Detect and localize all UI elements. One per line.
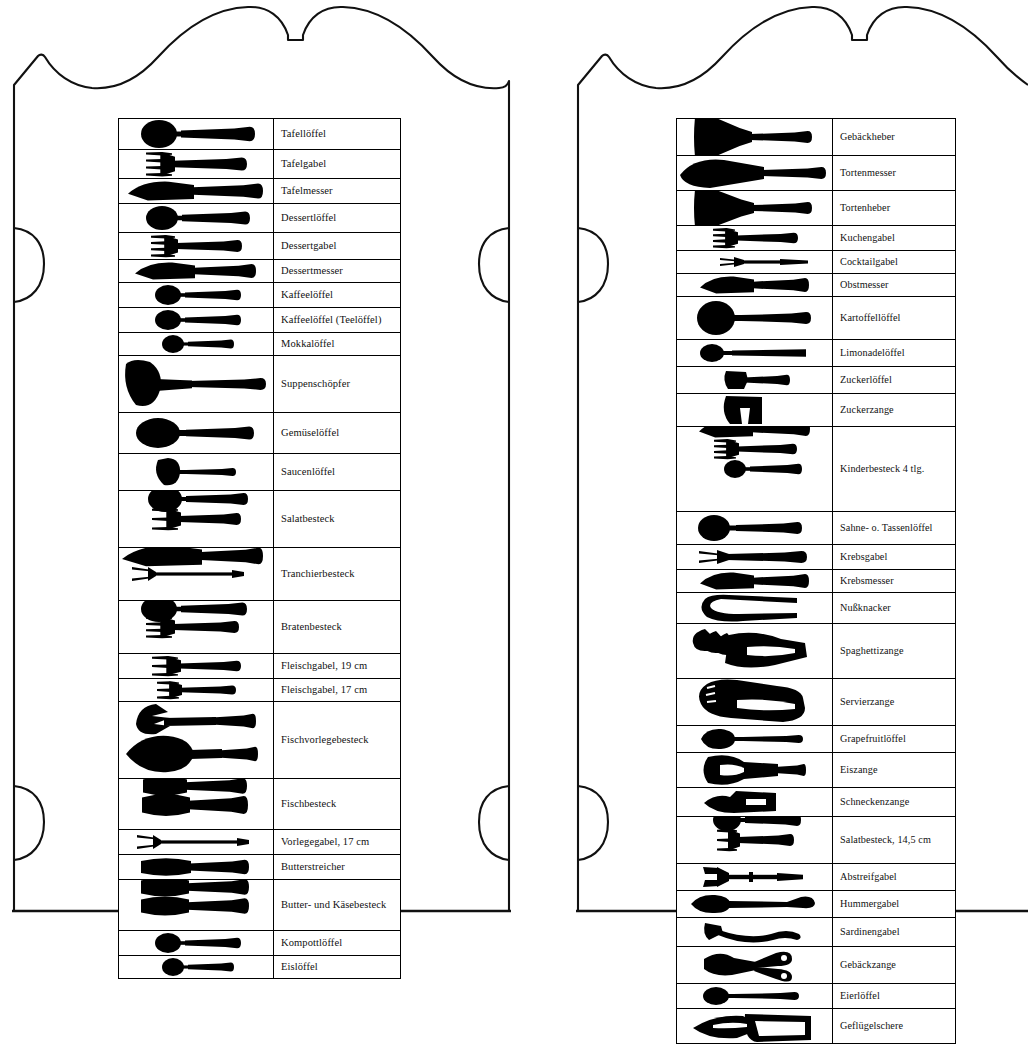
cocktail-fork-icon	[677, 251, 833, 274]
cutlery-silhouette	[677, 251, 832, 273]
table-row: Eiszange	[677, 753, 956, 788]
cutlery-label: Limonadelöffel	[833, 340, 956, 367]
table-row: Obstmesser	[677, 274, 956, 297]
spoon-tiny-icon	[119, 956, 274, 979]
cutlery-label: Grapefruitlöffel	[833, 726, 956, 753]
cutlery-label: Tafelgabel	[274, 150, 401, 179]
sugar-tongs-icon	[677, 394, 833, 427]
table-row: Geflügelschere	[677, 1009, 956, 1044]
table-row: Vorlegegabel, 17 cm	[119, 830, 401, 855]
cutlery-label: Tafelmesser	[274, 179, 401, 204]
table-row: Tafellöffel	[119, 119, 401, 150]
table-row: Abstreifgabel	[677, 864, 956, 891]
cutlery-silhouette	[119, 931, 273, 955]
table-row: Dessertmesser	[119, 260, 401, 283]
nutcracker-icon	[677, 593, 833, 624]
cutlery-label: Kaffeelöffel	[274, 283, 401, 308]
cutlery-silhouette	[677, 624, 832, 678]
cutlery-silhouette	[119, 702, 273, 778]
cutlery-silhouette	[119, 454, 273, 490]
cutlery-label: Zuckerlöffel	[833, 367, 956, 394]
cutlery-silhouette	[119, 679, 273, 701]
table-row: Butter- und Käsebesteck	[119, 880, 401, 931]
table-row: Gebäckheber	[677, 119, 956, 156]
cutlery-silhouette	[677, 274, 832, 296]
cutlery-silhouette	[677, 156, 832, 190]
cutlery-silhouette	[677, 297, 832, 339]
fork-large-icon	[119, 150, 274, 179]
cream-cup-spoon-icon	[677, 512, 833, 545]
sugar-spoon-icon	[677, 367, 833, 394]
table-row: Bratenbesteck	[119, 601, 401, 654]
cake-fork-icon	[677, 226, 833, 251]
grapefruit-spoon-icon	[677, 726, 833, 753]
cutlery-label: Dessertgabel	[274, 233, 401, 260]
cutlery-silhouette	[677, 753, 832, 787]
cutlery-label: Kinderbesteck 4 tlg.	[833, 427, 956, 512]
cutlery-label: Krebsmesser	[833, 570, 956, 593]
stripping-fork-icon	[677, 864, 833, 891]
spoon-medium-icon	[119, 204, 274, 233]
cutlery-label: Spaghettizange	[833, 624, 956, 679]
table-row: Tortenheber	[677, 191, 956, 226]
cutlery-silhouette	[119, 855, 273, 879]
children-set-4pc-icon	[677, 427, 833, 512]
table-row: Tafelmesser	[119, 179, 401, 204]
potato-spoon-icon	[677, 297, 833, 340]
cutlery-silhouette	[119, 956, 273, 978]
cutlery-label: Abstreifgabel	[833, 864, 956, 891]
table-row: Hummergabel	[677, 891, 956, 918]
fish-cutlery-set-icon	[119, 779, 274, 830]
fruit-knife-icon	[677, 274, 833, 297]
table-row: Kompottlöffel	[119, 931, 401, 956]
cutlery-silhouette	[677, 367, 832, 393]
knife-large-icon	[119, 179, 274, 204]
table-row: Fischbesteck	[119, 779, 401, 830]
butter-cheese-set-icon	[119, 880, 274, 931]
cutlery-silhouette	[119, 548, 273, 600]
cutlery-label: Servierzange	[833, 679, 956, 726]
cutlery-silhouette	[119, 179, 273, 203]
cutlery-silhouette	[119, 654, 273, 678]
cutlery-label: Cocktailgabel	[833, 251, 956, 274]
snail-tongs-icon	[677, 788, 833, 817]
cutlery-silhouette	[677, 545, 832, 569]
cutlery-silhouette	[677, 394, 832, 426]
cutlery-silhouette	[119, 308, 273, 332]
table-row: Kaffeelöffel	[119, 283, 401, 308]
table-row: Kartoffellöffel	[677, 297, 956, 340]
cutlery-label: Fischbesteck	[274, 779, 401, 830]
cake-server-icon	[677, 191, 833, 226]
cutlery-label: Dessertmesser	[274, 260, 401, 283]
table-row: Fischvorlegebesteck	[119, 702, 401, 779]
cutlery-label: Salatbesteck, 14,5 cm	[833, 817, 956, 864]
cutlery-silhouette	[119, 333, 273, 355]
table-row: Salatbesteck	[119, 491, 401, 548]
cutlery-silhouette	[119, 779, 273, 829]
sardine-fork-icon	[677, 918, 833, 947]
pastry-tongs-icon	[677, 947, 833, 984]
table-row: Dessertlöffel	[119, 204, 401, 233]
lobster-fork-icon	[677, 891, 833, 918]
cutlery-label: Tortenmesser	[833, 156, 956, 191]
table-body-left: TafellöffelTafelgabelTafelmesserDessertl…	[119, 119, 401, 979]
cake-knife-icon	[677, 156, 833, 191]
cutlery-silhouette	[677, 891, 832, 917]
table-row: Fleischgabel, 19 cm	[119, 654, 401, 679]
table-row: Grapefruitlöffel	[677, 726, 956, 753]
meat-fork-19-icon	[119, 654, 274, 679]
poultry-shears-icon	[677, 1009, 833, 1044]
cutlery-silhouette	[677, 788, 832, 816]
cutlery-label: Suppenschöpfer	[274, 356, 401, 413]
cutlery-silhouette	[119, 880, 273, 930]
cutlery-label: Kuchengabel	[833, 226, 956, 251]
cutlery-silhouette	[119, 601, 273, 653]
cutlery-silhouette	[677, 427, 832, 511]
cutlery-silhouette	[677, 679, 832, 725]
spoon-tiny-icon	[119, 333, 274, 356]
knife-medium-icon	[119, 260, 274, 283]
cutlery-silhouette	[119, 356, 273, 412]
pastry-server-icon	[677, 119, 833, 156]
cutlery-silhouette	[119, 413, 273, 453]
